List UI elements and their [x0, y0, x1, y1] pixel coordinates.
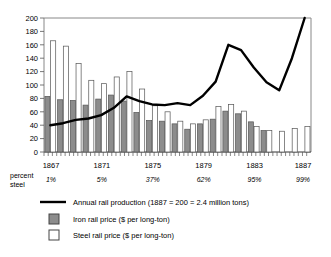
steel-price-bar [101, 84, 106, 152]
chart-canvas: 200 180 160 140 120 100 80 60 40 20 0 18… [0, 0, 331, 257]
y-tick-label: 0 [34, 148, 38, 157]
iron-price-bar [45, 96, 50, 152]
y-tick-label: 140 [25, 54, 38, 63]
iron-price-bar [197, 124, 202, 152]
x-tick-label: 1883 [246, 161, 263, 170]
steel-price-bar [76, 64, 81, 152]
y-tick-label: 20 [30, 134, 38, 143]
steel-price-bar [140, 89, 145, 152]
y-tick-label: 80 [30, 94, 38, 103]
iron-price-bar [121, 101, 126, 152]
percent-steel-value: 62% [197, 176, 211, 183]
iron-price-bar [147, 121, 152, 152]
legend-iron-swatch-icon [49, 214, 59, 224]
iron-price-bar [210, 119, 215, 152]
iron-price-bar [58, 100, 63, 152]
steel-price-bar [305, 127, 310, 152]
percent-steel-value: 5% [97, 176, 107, 183]
iron-price-bar [261, 131, 266, 152]
steel-price-bar [216, 106, 221, 152]
legend-label-production: Annual rail production (1887 = 200 = 2.4… [73, 198, 249, 207]
iron-price-bar [172, 124, 177, 152]
steel-price-bar [114, 77, 119, 152]
iron-price-bar [108, 95, 113, 152]
iron-price-bar [185, 129, 190, 152]
iron-price-bar [159, 121, 164, 152]
iron-price-bar [236, 114, 241, 152]
percent-steel-value: 95% [248, 176, 262, 183]
percent-steel-caption-line1: percent [10, 172, 33, 180]
x-tick-label: 1871 [94, 161, 111, 170]
steel-price-bar [190, 124, 195, 152]
legend-steel-swatch-icon [49, 230, 59, 240]
y-tick-label: 100 [25, 81, 38, 90]
steel-price-bar [279, 131, 284, 152]
rail-price-production-chart: 200 180 160 140 120 100 80 60 40 20 0 18… [0, 0, 331, 257]
iron-price-bar [248, 122, 253, 152]
steel-price-bar [63, 46, 68, 152]
y-tick-label: 200 [25, 14, 38, 23]
steel-price-bar [292, 129, 297, 152]
y-tick-label: 60 [30, 108, 38, 117]
steel-price-bar [241, 111, 246, 152]
legend-label-iron: Iron rail price ($ per long-ton) [73, 215, 170, 224]
iron-price-bar [223, 111, 228, 152]
y-tick-label: 40 [30, 121, 38, 130]
iron-price-bar [83, 105, 88, 152]
steel-price-bar [254, 127, 259, 152]
steel-price-bar [165, 112, 170, 152]
x-tick-label: 1867 [43, 161, 60, 170]
percent-steel-value: 37% [146, 176, 160, 183]
legend-label-steel: Steel rail price ($ per long-ton) [73, 231, 174, 240]
iron-price-bar [134, 112, 139, 152]
steel-price-bar [267, 131, 272, 152]
percent-steel-value: 99% [296, 176, 310, 183]
steel-price-bar [229, 104, 234, 152]
y-tick-label: 120 [25, 67, 38, 76]
percent-steel-caption-line2: steel [10, 181, 25, 188]
iron-price-bar [70, 100, 75, 152]
y-tick-label: 180 [25, 27, 38, 36]
steel-price-bar [178, 121, 183, 152]
steel-price-bar [203, 120, 208, 152]
percent-steel-value: 1% [46, 176, 56, 183]
y-tick-label: 160 [25, 41, 38, 50]
steel-price-bar [51, 41, 56, 152]
iron-price-bar [96, 99, 101, 152]
steel-price-bar [152, 106, 157, 152]
x-tick-label: 1887 [295, 161, 312, 170]
x-tick-label: 1875 [144, 161, 161, 170]
steel-price-bar [127, 72, 132, 152]
x-tick-label: 1879 [195, 161, 212, 170]
